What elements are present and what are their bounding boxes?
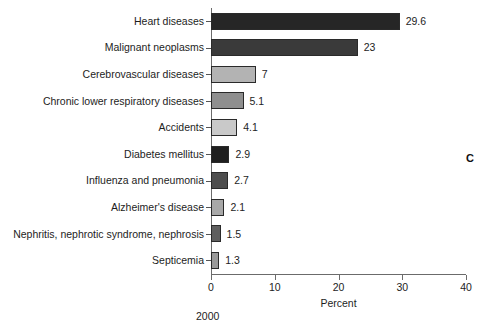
category-tick: [206, 127, 211, 128]
bar-row: Alzheimer's disease2.1: [211, 194, 245, 220]
bar-row: Accidents4.1: [211, 114, 258, 140]
category-label: Nephritis, nephrotic syndrome, nephrosis: [13, 229, 204, 240]
category-tick: [206, 181, 211, 182]
bar: [211, 225, 221, 242]
category-tick: [206, 48, 211, 49]
x-axis-tick-label: 30: [396, 282, 408, 293]
x-axis-tick: [211, 275, 212, 280]
category-label: Accidents: [158, 122, 204, 133]
category-tick: [206, 74, 211, 75]
bar-value-label: 7: [262, 69, 268, 80]
bar: [211, 39, 358, 56]
bar-value-label: 5.1: [250, 96, 265, 107]
bar-value-label: 4.1: [243, 122, 258, 133]
x-axis-tick: [466, 275, 467, 280]
bar: [211, 92, 244, 109]
x-axis-tick: [275, 275, 276, 280]
bar-value-label: 2.7: [234, 175, 249, 186]
x-axis-tick-label: 20: [333, 282, 345, 293]
category-tick: [206, 260, 211, 261]
bar: [211, 119, 237, 136]
bar-row: Influenza and pneumonia2.7: [211, 168, 249, 194]
bar-value-label: 29.6: [406, 16, 426, 27]
bar: [211, 199, 224, 216]
category-label: Septicemia: [152, 255, 204, 266]
chart-figure: Heart diseases29.6Malignant neoplasms23C…: [0, 0, 497, 328]
category-label: Chronic lower respiratory diseases: [43, 96, 204, 107]
bar: [211, 146, 229, 163]
x-axis-tick: [339, 275, 340, 280]
panel-letter: C: [466, 152, 474, 164]
x-axis-tick-label: 40: [460, 282, 472, 293]
category-label: Alzheimer's disease: [111, 202, 204, 213]
bar-row: Diabetes mellitus2.9: [211, 141, 250, 167]
bar: [211, 172, 228, 189]
bar-value-label: 1.3: [225, 255, 240, 266]
bar-row: Nephritis, nephrotic syndrome, nephrosis…: [211, 221, 241, 247]
x-axis-tick-label: 0: [208, 282, 214, 293]
category-tick: [206, 21, 211, 22]
bar-value-label: 1.5: [227, 229, 242, 240]
x-axis-tick: [402, 275, 403, 280]
bar-row: Chronic lower respiratory diseases5.1: [211, 88, 264, 114]
category-label: Heart diseases: [134, 16, 204, 27]
bar-row: Cerebrovascular diseases7: [211, 61, 267, 87]
category-label: Cerebrovascular diseases: [83, 69, 204, 80]
bar-row: Heart diseases29.6: [211, 8, 426, 34]
category-label: Malignant neoplasms: [105, 42, 204, 53]
category-tick: [206, 101, 211, 102]
bar: [211, 252, 219, 269]
category-tick: [206, 154, 211, 155]
bar: [211, 13, 400, 30]
bar-value-label: 2.1: [230, 202, 245, 213]
category-label: Diabetes mellitus: [124, 149, 204, 160]
bar-row: Septicemia1.3: [211, 247, 240, 273]
x-axis-title: Percent: [211, 297, 466, 309]
x-axis-tick-label: 10: [269, 282, 281, 293]
plot-area: Heart diseases29.6Malignant neoplasms23C…: [211, 8, 465, 274]
category-tick: [206, 234, 211, 235]
bar-value-label: 2.9: [235, 149, 250, 160]
category-tick: [206, 207, 211, 208]
bar: [211, 66, 256, 83]
category-label: Influenza and pneumonia: [86, 175, 204, 186]
bar-row: Malignant neoplasms23: [211, 35, 375, 61]
year-note: 2000: [196, 310, 219, 322]
bar-value-label: 23: [364, 42, 376, 53]
